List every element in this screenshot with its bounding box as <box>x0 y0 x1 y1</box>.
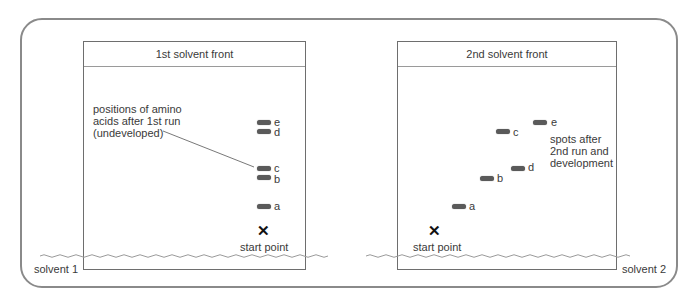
left-annotation: positions of amino acids after 1st run (… <box>93 103 182 139</box>
annotation-line: (undeveloped) <box>93 127 182 139</box>
spot-label: b <box>497 173 503 184</box>
solvent-1-label: solvent 1 <box>34 263 78 275</box>
spot-label: d <box>274 127 280 138</box>
spot-a-left <box>257 204 271 209</box>
solvent-2-label: solvent 2 <box>622 263 666 275</box>
annotation-line: spots after <box>550 133 613 145</box>
annotation-line: development <box>550 157 613 169</box>
spot-c-right <box>496 129 510 134</box>
start-point-label: start point <box>413 241 461 253</box>
spot-label: c <box>513 127 519 138</box>
spot-label: a <box>469 201 475 212</box>
annotation-line: positions of amino <box>93 103 182 115</box>
spot-b-right <box>480 176 494 181</box>
spot-a-right <box>452 204 466 209</box>
spot-d-left <box>257 129 271 134</box>
annotation-line: acids after 1st run <box>93 115 182 127</box>
spot-d-right <box>511 166 525 171</box>
right-annotation: spots after 2nd run and development <box>550 133 613 169</box>
spot-label: e <box>551 117 557 128</box>
solvent-1-wavy-line <box>40 255 328 258</box>
annotation-line: 2nd run and <box>550 145 613 157</box>
spot-label: a <box>274 201 280 212</box>
spot-e-right <box>533 120 547 125</box>
spot-e-left <box>257 120 271 125</box>
start-point-cross-icon: ✕ <box>428 223 441 238</box>
spot-b-left <box>257 175 271 180</box>
spot-label: d <box>528 162 534 173</box>
spot-c-left <box>257 166 271 171</box>
start-point-label: start point <box>240 241 288 253</box>
spot-label: b <box>274 174 280 185</box>
start-point-cross-icon: ✕ <box>257 223 270 238</box>
solvent-2-wavy-line <box>366 255 630 258</box>
